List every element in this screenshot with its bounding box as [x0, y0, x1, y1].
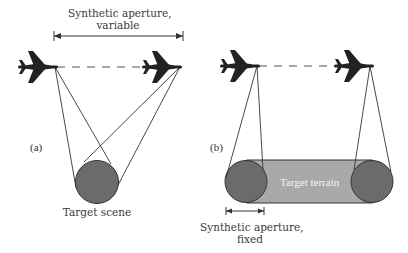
fixed-aperture-label-line2: fixed — [200, 233, 300, 245]
panel-b-label: (b) — [210, 141, 223, 153]
target-scene-label: Target scene — [62, 206, 132, 218]
variable-aperture-label-line2: variable — [68, 19, 168, 31]
aircraft-icon — [142, 51, 182, 83]
panel-b — [220, 50, 393, 215]
terrain-end-circle — [351, 161, 393, 203]
fixed-aperture-label: Synthetic aperture, fixed — [200, 221, 300, 245]
terrain-start-circle — [225, 161, 267, 203]
target-terrain-label: Target terrain — [280, 176, 339, 188]
fixed-aperture-label-line1: Synthetic aperture, — [200, 221, 300, 233]
fixed-aperture-arrow — [226, 207, 264, 215]
beam-lines-a — [55, 67, 180, 188]
variable-aperture-arrow — [54, 31, 183, 41]
panel-a — [18, 31, 183, 204]
aircraft-icon — [18, 51, 58, 83]
panel-a-label: (a) — [30, 141, 42, 153]
target-scene-circle — [76, 161, 119, 204]
variable-aperture-label: Synthetic aperture, variable — [68, 7, 168, 31]
variable-aperture-label-line1: Synthetic aperture, — [68, 7, 168, 19]
